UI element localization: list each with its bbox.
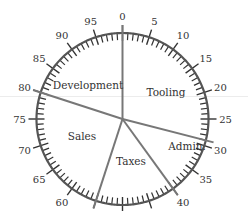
tick-label: 20 [214, 82, 227, 93]
tick-label: 15 [199, 53, 212, 64]
segment-divider [33, 90, 122, 119]
tick-label: 0 [119, 11, 125, 22]
segment-label-taxes: Taxes [116, 155, 146, 167]
tick-label: 40 [177, 197, 190, 208]
segment-labels: ToolingAdmin.TaxesSalesDevelopment [53, 79, 206, 167]
tick-label: 70 [18, 145, 31, 156]
tick-label: 35 [199, 174, 212, 185]
tick-label: 90 [56, 30, 69, 41]
tick-label: 75 [13, 114, 26, 125]
segment-label-sales: Sales [68, 130, 96, 142]
tick-label: 60 [56, 197, 69, 208]
segment-label-admin: Admin. [167, 140, 206, 152]
tick-label: 10 [177, 30, 190, 41]
tick-label: 85 [33, 53, 46, 64]
segment-dividers [33, 25, 213, 208]
tick-label: 25 [219, 114, 232, 125]
tick-label: 30 [214, 145, 227, 156]
tick-label: 95 [84, 16, 97, 27]
tick-label: 65 [33, 174, 46, 185]
tick-label: 80 [18, 82, 31, 93]
segment-label-tooling: Tooling [146, 86, 185, 98]
segment-label-development: Development [53, 79, 124, 91]
dial-pie-chart: 05101520253035404550556065707580859095 T… [0, 0, 248, 211]
tick-label: 5 [151, 16, 157, 27]
